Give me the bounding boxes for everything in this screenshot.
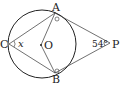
angle-arc-c — [14, 41, 15, 47]
geometry-diagram: A B C O P x 54° — [0, 0, 123, 90]
label-angle-p: 54° — [92, 39, 108, 49]
label-b: B — [52, 73, 60, 86]
label-angle-x: x — [18, 38, 24, 49]
center-dot — [40, 44, 42, 46]
label-c: C — [0, 38, 8, 51]
label-a: A — [51, 1, 61, 14]
label-o: O — [44, 39, 53, 52]
right-angle-mark-a — [55, 17, 59, 21]
label-p: P — [112, 38, 120, 51]
